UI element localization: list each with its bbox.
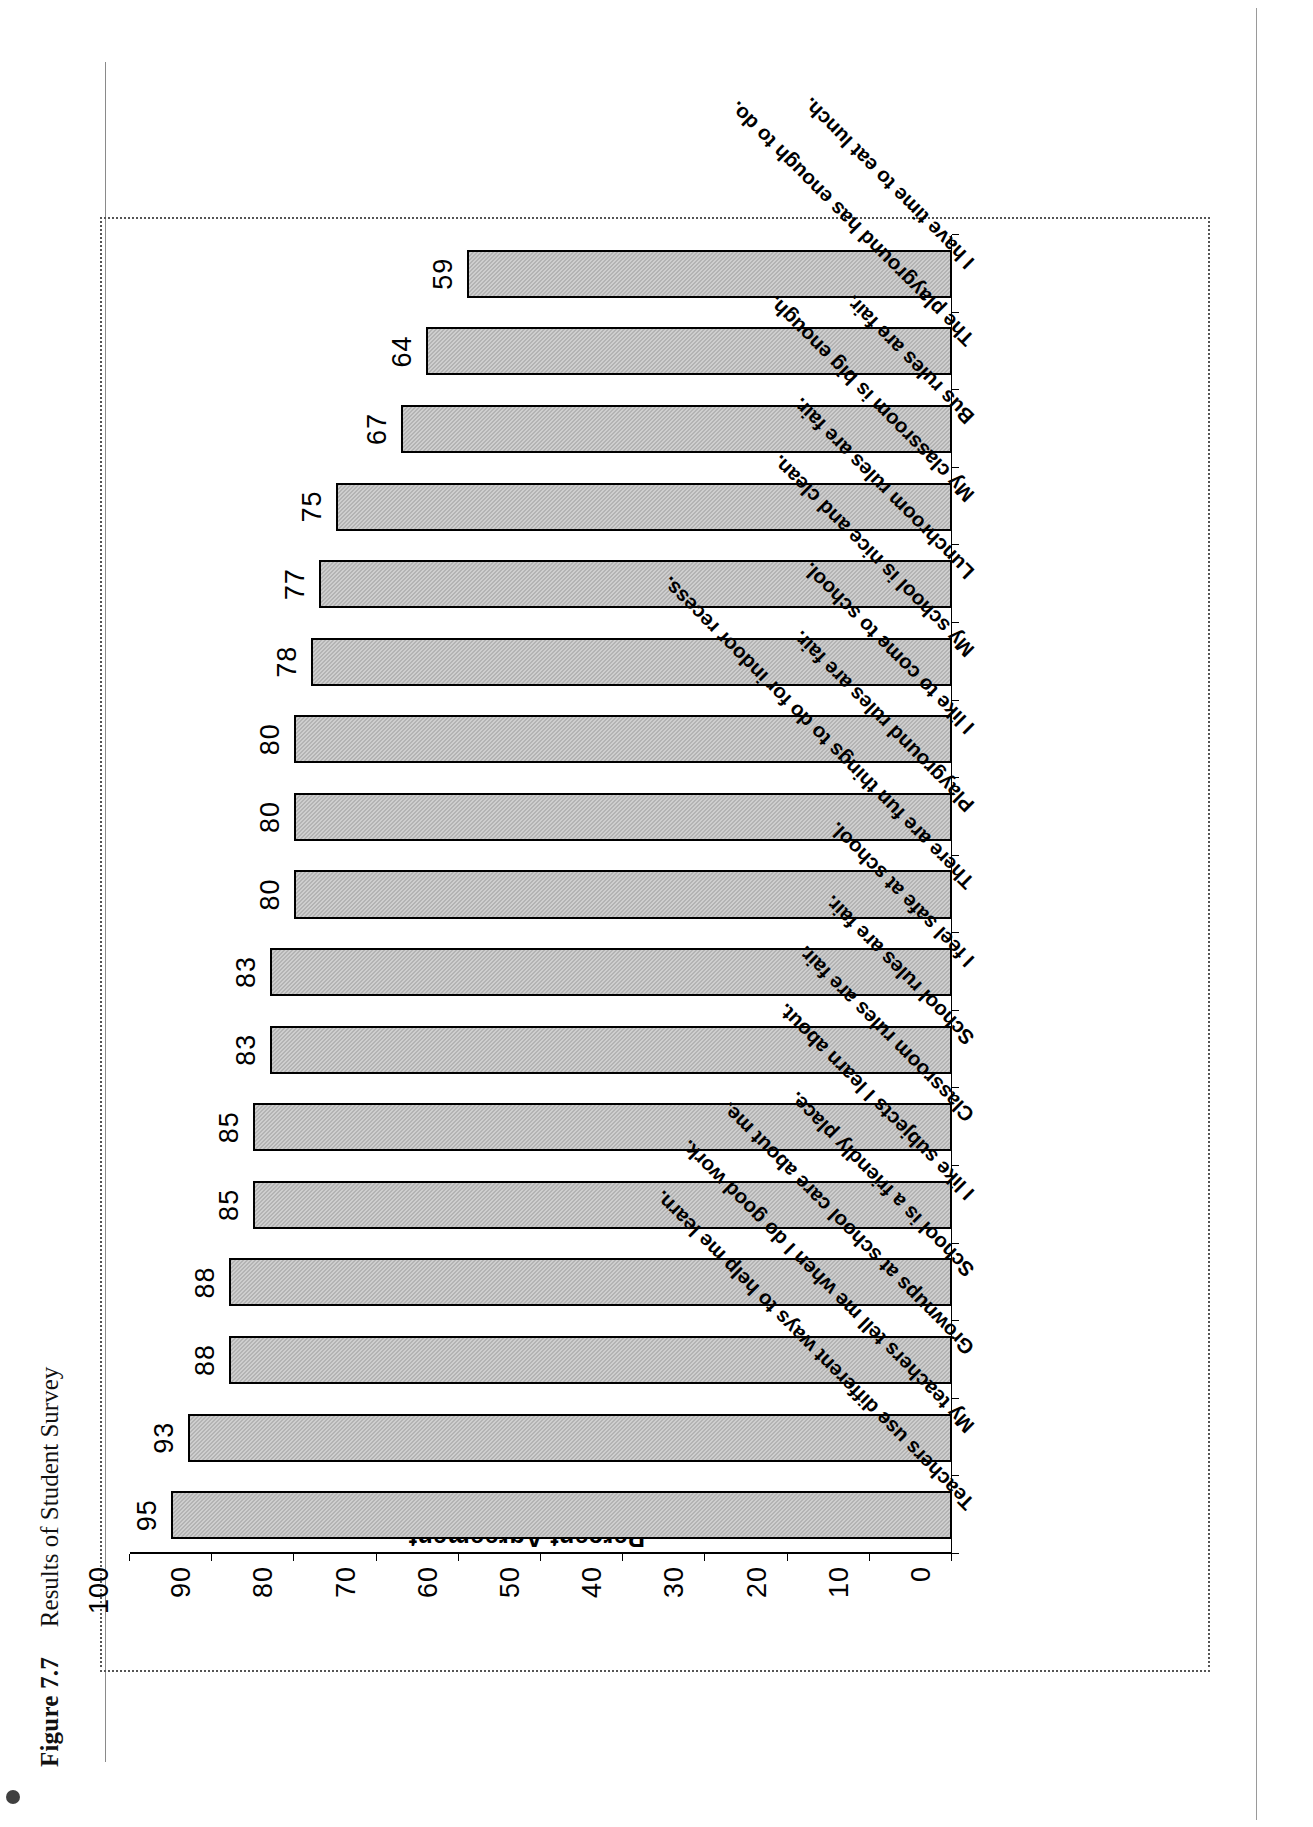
bar-value-label: 88 <box>190 1266 221 1298</box>
value-tick-mark <box>787 1554 788 1561</box>
bar-value-label: 95 <box>132 1499 163 1531</box>
value-tick-label: 40 <box>577 1566 608 1598</box>
value-tick-label: 90 <box>166 1566 197 1598</box>
value-tick-label: 80 <box>248 1566 279 1598</box>
chart-axes: 1009080706050403020100 95938888858583838… <box>130 235 952 1554</box>
figure-caption: Figure 7.7Results of Student Survey <box>36 867 76 1767</box>
figure-title: Results of Student Survey <box>36 1367 63 1627</box>
value-tick-mark <box>376 1554 377 1561</box>
bar-value-label: 85 <box>214 1189 245 1221</box>
bar-value-label: 83 <box>231 1034 262 1066</box>
value-tick-mark <box>458 1554 459 1561</box>
bar-value-label: 88 <box>190 1344 221 1376</box>
printed-page: Figure 7.7Results of Student Survey Perc… <box>0 0 1313 1827</box>
value-tick-mark <box>704 1554 705 1561</box>
bar-value-label: 80 <box>255 723 286 755</box>
figure-number: Figure 7.7 <box>36 1657 63 1767</box>
value-tick-mark <box>293 1554 294 1561</box>
value-tick-mark <box>129 1554 130 1561</box>
value-tick-label: 70 <box>330 1566 361 1598</box>
value-tick-mark <box>622 1554 623 1561</box>
bar-value-label: 85 <box>214 1111 245 1143</box>
bar: 95 <box>171 1491 952 1539</box>
bar-value-label: 78 <box>272 646 303 678</box>
bar-value-label: 83 <box>231 956 262 988</box>
value-tick-label: 60 <box>412 1566 443 1598</box>
value-tick-label: 20 <box>741 1566 772 1598</box>
bar-value-label: 80 <box>255 878 286 910</box>
value-tick-mark <box>869 1554 870 1561</box>
category-tick-mark <box>952 1553 959 1554</box>
bar: 75 <box>336 483 953 531</box>
bar-value-label: 67 <box>362 413 393 445</box>
value-tick-mark <box>211 1554 212 1561</box>
bar-value-label: 80 <box>255 801 286 833</box>
value-tick-label: 50 <box>495 1566 526 1598</box>
bar-value-label: 64 <box>387 335 418 367</box>
rotated-figure-container: Figure 7.7Results of Student Survey Perc… <box>0 0 1313 1827</box>
value-tick-mark <box>951 1554 952 1561</box>
value-tick-label: 100 <box>84 1566 115 1614</box>
value-tick-label: 0 <box>906 1566 937 1582</box>
bar-value-label: 75 <box>297 491 328 523</box>
value-tick-label: 30 <box>659 1566 690 1598</box>
bar: 93 <box>188 1414 952 1462</box>
value-tick-label: 10 <box>823 1566 854 1598</box>
bar-value-label: 93 <box>149 1422 180 1454</box>
bar-value-label: 77 <box>280 568 311 600</box>
chart-plot-area: Percent Agreement 1009080706050403020100… <box>100 217 1210 1672</box>
bar-value-label: 59 <box>428 258 459 290</box>
value-tick-mark <box>540 1554 541 1561</box>
